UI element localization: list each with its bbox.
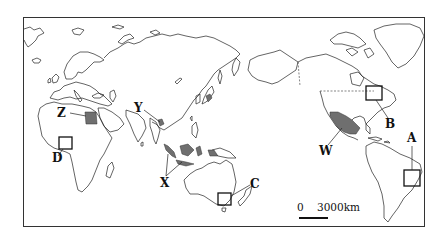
label-b: B xyxy=(385,118,395,130)
caribbean xyxy=(368,137,390,143)
africa xyxy=(38,102,112,192)
russia-arctic-coast xyxy=(104,34,240,74)
madagascar xyxy=(106,162,114,178)
leader-y xyxy=(144,110,160,122)
novaya-zemlya xyxy=(118,34,134,44)
philippines xyxy=(192,122,198,138)
florida xyxy=(366,124,370,134)
label-c: C xyxy=(250,178,260,190)
box-a xyxy=(404,170,420,186)
sumatra-shaded-region xyxy=(164,144,176,158)
black-sea xyxy=(92,93,104,98)
taiwan xyxy=(190,116,192,121)
new-guinea-shaded-region xyxy=(208,150,218,156)
scale-end-label: 3000km xyxy=(317,202,360,213)
sri-lanka xyxy=(141,142,143,146)
alaska xyxy=(248,50,298,84)
box-d xyxy=(59,137,72,149)
sakhalin xyxy=(218,70,222,84)
severnaya-zemlya xyxy=(150,30,160,35)
sulawesi-shaded-region xyxy=(196,146,202,156)
leader-b xyxy=(376,100,388,118)
arctic-archipelago xyxy=(330,32,374,58)
australia xyxy=(184,160,236,206)
canada-coast xyxy=(298,54,396,124)
label-a: A xyxy=(407,132,416,144)
box-b xyxy=(366,86,382,100)
italy xyxy=(74,90,82,102)
scale-bar xyxy=(299,217,328,219)
greenland-east-coast xyxy=(24,27,44,47)
europe-coast xyxy=(50,82,112,106)
scandinavia xyxy=(64,52,104,79)
label-x: X xyxy=(160,177,169,189)
hudson-bay xyxy=(350,72,364,86)
svalbard xyxy=(72,28,84,35)
leader-x-1 xyxy=(166,154,168,176)
world-map xyxy=(0,0,446,244)
iceland xyxy=(32,58,41,63)
south-america xyxy=(366,142,422,222)
alaska-border xyxy=(298,62,300,86)
label-y: Y xyxy=(134,102,143,114)
mexico-shaded-region xyxy=(330,112,360,134)
leader-z xyxy=(70,113,86,116)
bangladesh-shaded-region xyxy=(158,119,164,126)
borneo-shaded-region xyxy=(180,144,194,156)
british-isles xyxy=(48,74,59,83)
tasmania xyxy=(222,208,226,212)
box-c xyxy=(218,193,231,205)
caspian-sea xyxy=(110,90,116,102)
label-z: Z xyxy=(57,107,66,119)
leader-c xyxy=(231,185,250,196)
kamchatka xyxy=(232,58,240,76)
scale-start-label: 0 xyxy=(297,202,304,213)
label-w: W xyxy=(319,145,332,157)
lake-baikal xyxy=(175,78,182,84)
franz-josef xyxy=(112,25,124,29)
arabia xyxy=(98,108,124,132)
label-d: D xyxy=(52,152,62,164)
greenland xyxy=(374,24,424,68)
egypt-shaded-region xyxy=(85,112,97,124)
leader-w xyxy=(328,128,342,145)
leader-x-2 xyxy=(166,162,182,176)
